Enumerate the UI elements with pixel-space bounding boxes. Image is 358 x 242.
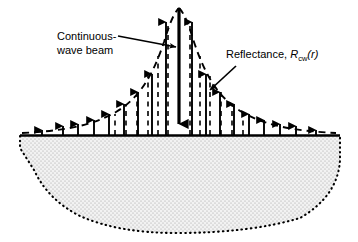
reflectance-leader-line [210,66,236,90]
reflectance-argument: (r) [307,48,318,60]
reflectance-curve-right [179,8,336,133]
beam-label-line1: Continuous- [57,30,117,42]
diagram-svg: Continuous- wave beam Reflectance, Rcw(r… [0,0,358,242]
reflectance-label: Reflectance, Rcw(r) [226,48,319,63]
reflectance-curve-left [22,8,179,133]
tissue-fill [20,136,340,233]
figure-container: Continuous- wave beam Reflectance, Rcw(r… [0,0,358,242]
beam-label-line2: wave beam [56,44,113,56]
reflectance-label-prefix: Reflectance, [226,48,290,60]
reflectance-symbol: R [290,48,298,60]
tissue-medium [20,136,340,233]
